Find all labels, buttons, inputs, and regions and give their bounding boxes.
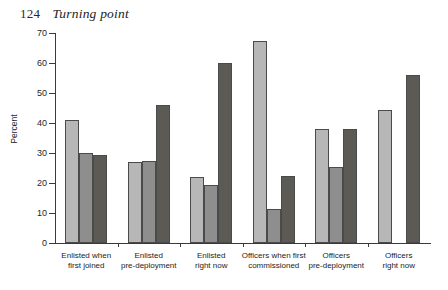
y-axis-tick-label: 10 <box>37 209 47 218</box>
x-axis-group-tick <box>243 243 244 247</box>
bar <box>267 209 281 244</box>
y-axis-tick <box>49 213 55 214</box>
bar <box>378 110 392 244</box>
bar <box>343 129 357 243</box>
bar <box>128 162 142 243</box>
x-axis-group-tick <box>118 243 119 247</box>
y-axis-tick <box>49 63 55 64</box>
y-axis-tick-label: 30 <box>37 149 47 158</box>
y-axis-tick-label: 40 <box>37 119 47 128</box>
y-axis-tick-label: 50 <box>37 89 47 98</box>
bar-chart: Percent 010203040506070 Enlisted when fi… <box>0 0 448 290</box>
y-axis-line <box>55 33 56 244</box>
bar <box>218 63 232 243</box>
y-axis-tick-label: 0 <box>42 239 47 248</box>
bar <box>142 161 156 244</box>
bar <box>406 75 420 243</box>
y-axis-tick <box>49 93 55 94</box>
bar <box>190 177 204 243</box>
bar <box>156 105 170 243</box>
y-axis-tick-label: 70 <box>37 29 47 38</box>
bar <box>315 129 329 243</box>
y-axis-tick <box>49 153 55 154</box>
y-axis-tick-label: 20 <box>37 179 47 188</box>
bar <box>253 41 267 244</box>
x-axis-group-tick <box>368 243 369 247</box>
bar <box>204 185 218 244</box>
x-axis-group-label: Officers right now <box>360 251 439 271</box>
bar <box>93 155 107 244</box>
bar <box>65 120 79 243</box>
y-axis-tick-label: 60 <box>37 59 47 68</box>
x-axis-group-tick <box>180 243 181 247</box>
y-axis-title: Percent <box>9 94 19 164</box>
y-axis-tick <box>49 123 55 124</box>
bar <box>281 176 295 244</box>
x-axis-group-tick <box>305 243 306 247</box>
bar <box>329 167 343 244</box>
bar <box>79 153 93 243</box>
y-axis-tick <box>49 33 55 34</box>
y-axis-tick <box>49 243 55 244</box>
y-axis-tick <box>49 183 55 184</box>
